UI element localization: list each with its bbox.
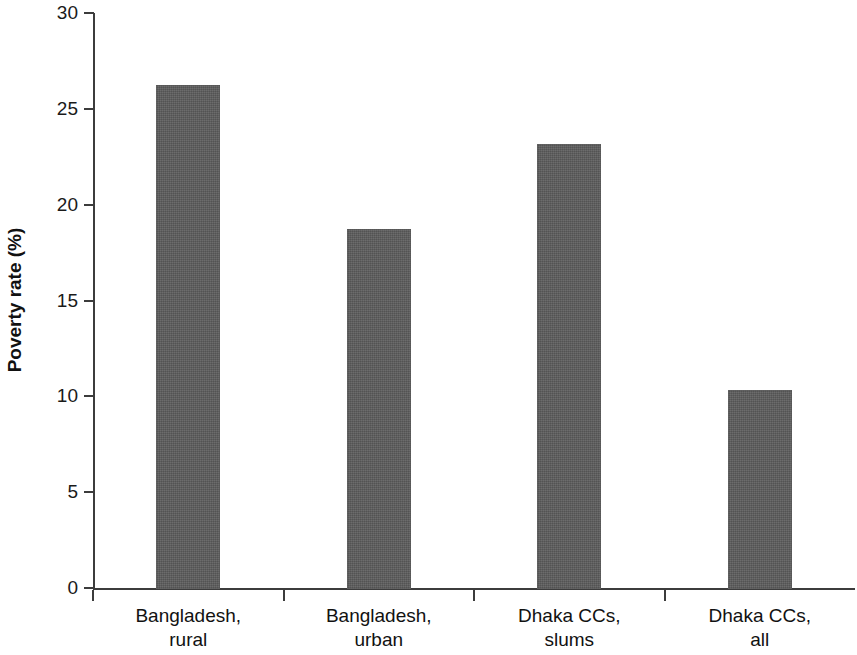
bar-chart-figure: Poverty rate (%) 051015202530 Bangladesh… (0, 0, 857, 655)
bar (156, 85, 220, 589)
x-axis-tick-mark (283, 590, 285, 601)
x-axis-category-label-line: Dhaka CCs, (474, 604, 665, 628)
x-axis-category-label-line: urban (284, 628, 475, 652)
y-axis-tick-label: 0 (32, 578, 78, 597)
x-axis-category-label-line: Bangladesh, (93, 604, 284, 628)
x-axis-category-label-line: rural (93, 628, 284, 652)
y-axis-tick-label: 10 (32, 386, 78, 405)
plot-area (93, 13, 855, 589)
y-axis-tick-label: 25 (32, 99, 78, 118)
bar (728, 390, 792, 589)
x-axis-tick-mark (664, 590, 666, 601)
bar (537, 144, 601, 589)
y-axis-tick-label: 15 (32, 291, 78, 310)
y-axis-tick-label: 30 (32, 3, 78, 22)
x-axis-category-label: Bangladesh,urban (284, 604, 475, 652)
bar (347, 229, 411, 589)
x-axis-category-label-line: all (665, 628, 856, 652)
x-axis-category-labels: Bangladesh,ruralBangladesh,urbanDhaka CC… (93, 604, 855, 655)
x-axis-tick-mark (92, 590, 94, 601)
x-axis-category-label-line: slums (474, 628, 665, 652)
y-axis-tick-label: 20 (32, 195, 78, 214)
x-axis-category-label-line: Bangladesh, (284, 604, 475, 628)
x-axis-category-label: Bangladesh,rural (93, 604, 284, 652)
x-axis-category-label-line: Dhaka CCs, (665, 604, 856, 628)
y-axis-tick-labels: 051015202530 (30, 0, 78, 655)
y-axis-title: Poverty rate (%) (0, 0, 30, 600)
x-axis-tick-mark (473, 590, 475, 601)
y-axis-title-text: Poverty rate (%) (4, 228, 26, 373)
x-axis-category-label: Dhaka CCs,slums (474, 604, 665, 652)
y-axis-tick-label: 5 (32, 482, 78, 501)
x-axis-category-label: Dhaka CCs,all (665, 604, 856, 652)
